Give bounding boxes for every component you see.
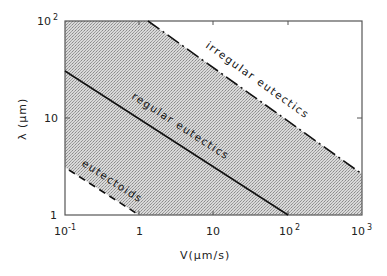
svg-text:1: 1 bbox=[136, 225, 143, 238]
y-tick-labels: 1 10 102 bbox=[37, 13, 58, 222]
svg-text:102: 102 bbox=[279, 223, 300, 238]
svg-text:10: 10 bbox=[44, 112, 58, 125]
svg-text:102: 102 bbox=[37, 13, 58, 28]
svg-text:1: 1 bbox=[50, 209, 57, 222]
svg-text:10-1: 10-1 bbox=[54, 223, 76, 238]
svg-text:103: 103 bbox=[351, 223, 372, 238]
y-axis-label: λ (μm) bbox=[16, 98, 29, 140]
x-tick-labels: 10-1 1 10 102 103 bbox=[54, 223, 372, 238]
x-axis-label: V(μm/s) bbox=[180, 249, 230, 262]
chart: irregular eutectics regular eutectics eu… bbox=[0, 0, 387, 276]
svg-text:10: 10 bbox=[206, 225, 220, 238]
